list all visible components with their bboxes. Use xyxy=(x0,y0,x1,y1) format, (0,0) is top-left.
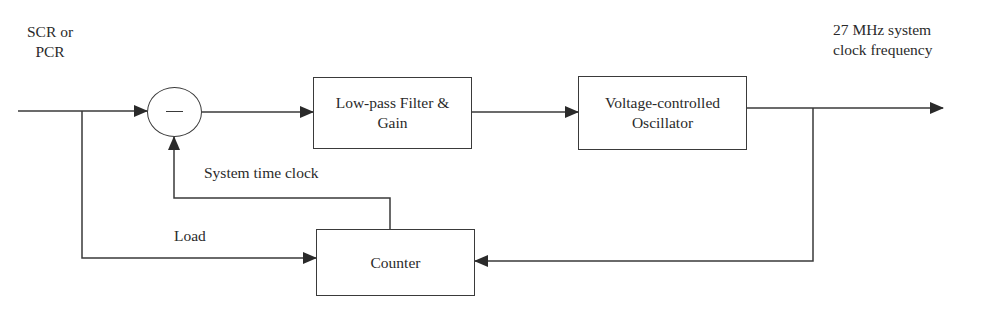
low-pass-filter-gain-block: Low-pass Filter & Gain xyxy=(313,77,472,149)
counter-label: Counter xyxy=(371,253,421,273)
output-label: 27 MHz system clock frequency xyxy=(833,20,932,60)
load-label: Load xyxy=(174,226,206,246)
low-pass-filter-gain-label: Low-pass Filter & Gain xyxy=(336,93,450,133)
system-time-clock-label: System time clock xyxy=(204,163,319,183)
counter-block: Counter xyxy=(316,229,475,296)
stc-to-sum-arrow xyxy=(174,137,390,229)
summing-junction xyxy=(147,87,202,137)
input-label: SCR or PCR xyxy=(27,22,73,62)
voltage-controlled-oscillator-label: Voltage-controlled Oscillator xyxy=(605,93,720,133)
voltage-controlled-oscillator-block: Voltage-controlled Oscillator xyxy=(578,76,747,150)
pll-block-diagram: SCR or PCR 27 MHz system clock frequency… xyxy=(0,0,983,319)
minus-icon xyxy=(166,111,183,112)
